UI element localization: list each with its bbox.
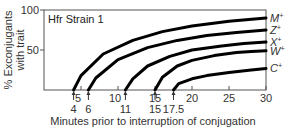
entry-arrow-icon [123, 91, 127, 95]
chart-title: Hfr Strain 1 [48, 13, 104, 25]
series-label-Cplus: C+ [270, 62, 282, 74]
entry-time-label: 15 [149, 103, 161, 115]
series-label-Zplus: Z+ [269, 24, 281, 36]
curve-Mplus [74, 18, 266, 90]
y-axis-title-line2: with trait [14, 30, 26, 72]
x-tick-label: 20 [186, 92, 198, 104]
entry-time-label: 17.5 [163, 103, 184, 115]
curve-Cplus [174, 68, 267, 90]
entry-time-label: 6 [85, 103, 91, 115]
series-label-Wplus: W+ [270, 45, 284, 57]
chart-svg: 501005101520253046111517.5M+Z+X+W+C+Hfr … [0, 0, 293, 129]
y-tick-label: 50 [27, 44, 39, 56]
x-tick-label: 25 [223, 92, 235, 104]
curve-Zplus [88, 30, 266, 90]
y-axis-title-line1: % Exconjugants [2, 10, 14, 89]
entry-time-label: 4 [71, 103, 77, 115]
y-tick-label: 100 [21, 4, 39, 16]
entry-arrow-icon [86, 91, 90, 95]
x-tick-label: 30 [260, 92, 272, 104]
entry-time-label: 11 [120, 103, 131, 115]
entry-arrow-icon [172, 91, 176, 95]
interrupted-mating-chart: 501005101520253046111517.5M+Z+X+W+C+Hfr … [0, 0, 293, 129]
series-label-Mplus: M+ [270, 12, 283, 24]
x-axis-title: Minutes prior to interruption of conjuga… [50, 115, 255, 127]
